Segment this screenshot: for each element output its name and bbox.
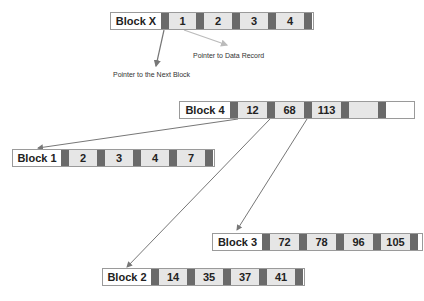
- next-block-pointer-arrow: [156, 30, 164, 66]
- edge-block4-block1: [38, 119, 238, 148]
- key-cell: 68: [275, 102, 304, 118]
- pointer-cell: [161, 13, 169, 29]
- block-label: Block 3: [213, 234, 262, 250]
- pointer-cell: [378, 102, 386, 118]
- data-record-pointer-caption: Pointer to Data Record: [193, 52, 264, 59]
- key-cell: 35: [195, 269, 223, 285]
- key-cell: 72: [270, 234, 299, 250]
- pointer-cell: [223, 269, 231, 285]
- pointer-cell: [151, 269, 159, 285]
- key-cell: 37: [231, 269, 259, 285]
- block-label: Block 2: [103, 269, 151, 285]
- legend-block-x: Block X 1 2 3 4: [110, 12, 314, 30]
- key-cell: 96: [344, 234, 373, 250]
- pointer-cell: [299, 234, 307, 250]
- data-record-pointer-arrow: [184, 30, 227, 45]
- block-4: Block 4 12 68 113: [179, 101, 415, 119]
- pointer-cell: [196, 13, 204, 29]
- pointer-cell: [205, 150, 213, 166]
- pointer-cell: [259, 269, 267, 285]
- pointer-cell: [187, 269, 195, 285]
- block-1: Block 1 2 3 4 7: [12, 149, 215, 167]
- pointer-cell: [336, 234, 344, 250]
- block-label: Block X: [111, 13, 161, 29]
- key-cell: 3: [240, 13, 268, 29]
- key-cell: 1: [169, 13, 196, 29]
- pointer-cell: [262, 234, 270, 250]
- pointer-cell: [97, 150, 105, 166]
- edge-block4-block3: [237, 119, 307, 230]
- key-cell: 3: [105, 150, 133, 166]
- pointer-cell: [410, 234, 418, 250]
- pointer-cell: [268, 13, 276, 29]
- pointer-cell: [295, 269, 303, 285]
- key-cell: 4: [276, 13, 304, 29]
- key-cell: 113: [312, 102, 341, 118]
- key-cell: [349, 102, 378, 118]
- key-cell: 2: [204, 13, 232, 29]
- pointer-cell: [232, 13, 240, 29]
- block-3: Block 3 72 78 96 105: [212, 233, 423, 251]
- pointer-cell: [304, 102, 312, 118]
- key-cell: 78: [307, 234, 336, 250]
- pointer-cell: [169, 150, 177, 166]
- pointer-cell: [61, 150, 69, 166]
- pointer-cell: [133, 150, 141, 166]
- pointer-cell: [304, 13, 312, 29]
- key-cell: 41: [267, 269, 295, 285]
- key-cell: 12: [238, 102, 267, 118]
- block-label: Block 4: [180, 102, 230, 118]
- key-cell: 4: [141, 150, 169, 166]
- pointer-cell: [341, 102, 349, 118]
- block-2: Block 2 14 35 37 41: [102, 268, 305, 286]
- key-cell: 14: [159, 269, 187, 285]
- pointer-cell: [373, 234, 381, 250]
- block-label: Block 1: [13, 150, 61, 166]
- key-cell: 7: [177, 150, 205, 166]
- pointer-cell: [267, 102, 275, 118]
- key-cell: 2: [69, 150, 97, 166]
- next-block-pointer-caption: Pointer to the Next Block: [113, 71, 190, 78]
- pointer-cell: [230, 102, 238, 118]
- key-cell: 105: [381, 234, 410, 250]
